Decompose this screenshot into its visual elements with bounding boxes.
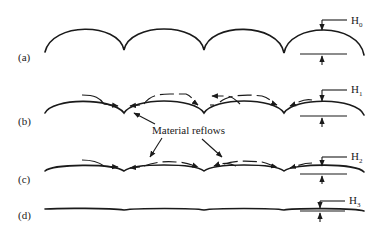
annotation-text: Material reflows — [152, 124, 225, 136]
annotation-arrow-down-left — [150, 138, 162, 157]
material-reflows-annotation: Material reflows — [134, 113, 225, 157]
height-label-a: H0 — [351, 14, 363, 29]
height-label-d: H3 — [349, 194, 361, 209]
reflow-arrows-b — [82, 94, 312, 106]
surface-profile-a — [45, 29, 364, 55]
stage-label-d: (d) — [18, 209, 31, 222]
stage-c: (c) H2 — [18, 150, 364, 186]
height-label-b: H1 — [351, 83, 363, 98]
stage-d: (d) H3 — [18, 194, 364, 222]
annotation-arrow-down-right — [202, 139, 222, 157]
stage-b: (b) H1 — [18, 83, 364, 128]
stage-label-c: (c) — [18, 173, 31, 186]
height-label-c: H2 — [351, 150, 363, 165]
stage-label-b: (b) — [18, 115, 31, 128]
surface-profile-c — [45, 165, 364, 172]
height-indicator-b: H1 — [300, 83, 363, 127]
reflow-diagram: (a) H0 (b) H1 M — [0, 0, 383, 236]
stage-a: (a) H0 — [18, 14, 364, 65]
stage-label-a: (a) — [18, 51, 31, 64]
reflow-arrows-c — [82, 160, 312, 168]
annotation-arrow-up-left — [134, 113, 155, 124]
surface-profile-b — [45, 101, 364, 115]
